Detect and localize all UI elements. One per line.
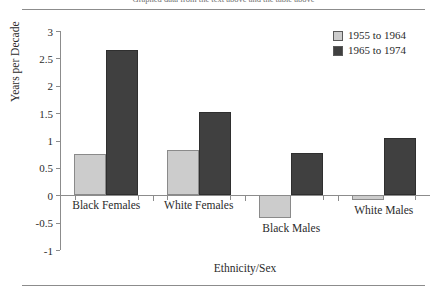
- legend-item: 1955 to 1964: [333, 29, 406, 42]
- x-axis-category-label: Black Males: [262, 222, 320, 235]
- bar: [106, 50, 138, 195]
- legend-item: 1965 to 1974: [333, 44, 406, 57]
- y-axis-tick-label: 1: [48, 136, 54, 147]
- y-axis-tick: -1: [56, 250, 60, 251]
- y-axis-tick: 0: [56, 195, 60, 196]
- y-axis-tick-label: 3: [48, 26, 54, 37]
- y-axis-tick: 2.5: [56, 58, 60, 59]
- x-axis-minor-tick: [323, 196, 324, 200]
- x-axis-title: Ethnicity/Sex: [60, 262, 430, 275]
- bar: [74, 154, 106, 195]
- y-axis-tick-label: -1: [44, 245, 53, 256]
- x-axis-tick: [153, 196, 154, 201]
- chart-figure: Graphed data from the text above and the…: [0, 0, 447, 294]
- y-axis-tick: -0.5: [56, 223, 60, 224]
- chart-legend: 1955 to 19641965 to 1974: [333, 29, 406, 59]
- bar: [291, 153, 323, 196]
- legend-swatch: [333, 31, 343, 41]
- y-axis-tick-label: 1.5: [39, 108, 53, 119]
- bar: [259, 195, 291, 218]
- x-axis-tick: [338, 196, 339, 201]
- legend-swatch: [333, 46, 343, 56]
- clipped-caption-text: Graphed data from the text above and the…: [0, 0, 447, 4]
- y-axis-tick: 1.5: [56, 113, 60, 114]
- y-axis-tick-label: -0.5: [36, 218, 53, 229]
- y-axis-tick: 0.5: [56, 168, 60, 169]
- x-axis-category-label: Black Females: [72, 199, 140, 212]
- legend-label: 1955 to 1964: [348, 30, 406, 41]
- y-axis-tick: 1: [56, 141, 60, 142]
- x-axis-minor-tick: [415, 196, 416, 200]
- y-axis-tick-label: 2.5: [39, 53, 53, 64]
- y-axis-tick-label: 0.5: [39, 163, 53, 174]
- legend-label: 1965 to 1974: [348, 45, 406, 56]
- y-axis-tick: 3: [56, 31, 60, 32]
- y-axis-line: [60, 31, 61, 250]
- top-rule: [22, 9, 425, 10]
- bar: [199, 112, 231, 195]
- bar: [384, 138, 416, 195]
- y-axis-tick-label: 2: [48, 81, 54, 92]
- x-axis-category-label: White Males: [354, 204, 413, 217]
- plot-area: 32.521.510.50-0.5-1: [60, 31, 430, 250]
- x-axis-tick: [245, 196, 246, 201]
- clipped-caption: Graphed data from the text above and the…: [0, 0, 447, 6]
- y-axis-tick-label: 0: [48, 190, 54, 201]
- y-axis-title: Years per Decade: [9, 88, 22, 102]
- bottom-rule: [22, 285, 425, 286]
- y-axis-tick: 2: [56, 86, 60, 87]
- x-axis-category-label: White Females: [164, 199, 233, 212]
- bar: [167, 150, 199, 195]
- bar: [352, 195, 384, 199]
